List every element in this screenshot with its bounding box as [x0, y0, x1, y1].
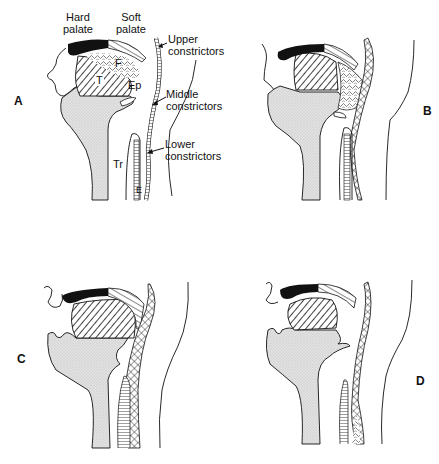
label-hard-palate-line1: Hard [63, 11, 93, 23]
swallowing-diagram [0, 0, 439, 464]
label-upper-line2: constrictors [168, 45, 224, 57]
label-middle-line1: Middle [166, 88, 222, 100]
label-middle-constrictors: Middle constrictors [166, 88, 222, 112]
label-soft-palate-line1: Soft [116, 11, 146, 23]
label-upper-line1: Upper [168, 33, 224, 45]
panel-d [266, 280, 412, 444]
panel-c [44, 282, 188, 448]
label-lower-line2: constrictors [165, 150, 221, 162]
label-epiglottis: Ep [128, 79, 141, 91]
label-middle-line2: constrictors [166, 100, 222, 112]
label-soft-palate: Soft palate [116, 11, 146, 35]
label-food-bolus: F [115, 57, 122, 69]
label-hard-palate-line2: palate [63, 23, 93, 35]
panel-b [262, 38, 414, 200]
label-upper-constrictors: Upper constrictors [168, 33, 224, 57]
panel-label-d: D [416, 374, 425, 388]
label-tongue: T [95, 74, 104, 86]
panel-label-c: C [17, 352, 26, 366]
panel-label-b: B [423, 104, 432, 118]
label-trachea: Tr [113, 158, 123, 170]
label-soft-palate-line2: palate [116, 23, 146, 35]
panel-label-a: A [14, 94, 23, 108]
label-hard-palate: Hard palate [63, 11, 93, 35]
label-esophagus: E [136, 184, 142, 196]
label-lower-constrictors: Lower constrictors [165, 138, 221, 162]
label-lower-line1: Lower [165, 138, 221, 150]
